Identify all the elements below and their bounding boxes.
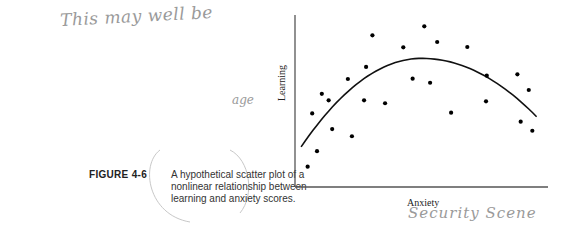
data-point xyxy=(401,45,405,49)
data-point xyxy=(527,88,531,92)
data-point xyxy=(485,74,489,78)
data-point xyxy=(306,165,310,169)
data-point xyxy=(449,111,453,115)
data-point xyxy=(370,33,374,37)
data-point xyxy=(519,120,523,124)
fit-curve xyxy=(301,58,536,147)
data-point xyxy=(435,40,439,44)
data-point xyxy=(411,77,415,81)
data-point xyxy=(484,99,488,103)
y-axis-label: Learning xyxy=(276,65,287,101)
data-points xyxy=(306,24,535,169)
data-point xyxy=(350,134,354,138)
data-point xyxy=(428,81,432,85)
data-point xyxy=(330,127,334,131)
data-point xyxy=(530,129,534,133)
scatter-plot xyxy=(0,0,577,230)
data-point xyxy=(320,92,324,96)
data-point xyxy=(362,98,366,102)
data-point xyxy=(465,45,469,49)
data-point xyxy=(310,111,314,115)
data-point xyxy=(364,65,368,69)
data-point xyxy=(422,24,426,28)
data-point xyxy=(327,98,331,102)
data-point xyxy=(315,149,319,153)
x-axis-label: Anxiety xyxy=(407,197,439,208)
data-point xyxy=(383,101,387,105)
data-point xyxy=(346,77,350,81)
data-point xyxy=(515,72,519,76)
